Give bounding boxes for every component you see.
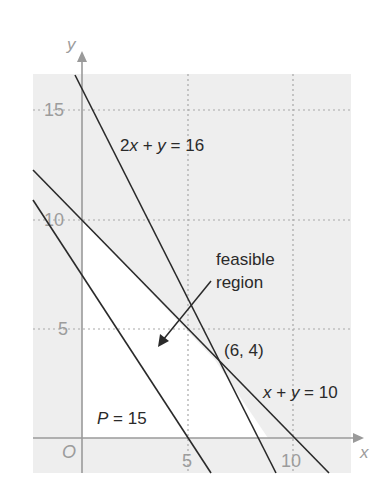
lp-diagram: 15 10 5 5 10 O y x 2x + y = 16 feasible … bbox=[0, 0, 382, 502]
x-axis-label: x bbox=[359, 443, 369, 462]
x-tick-5: 5 bbox=[182, 451, 192, 471]
label-region: region bbox=[216, 273, 263, 292]
y-tick-10: 10 bbox=[44, 210, 64, 230]
y-axis-label: y bbox=[66, 35, 77, 54]
label-feasible: feasible bbox=[216, 250, 275, 269]
label-x-plus-y-10: x + y = 10 bbox=[262, 383, 338, 402]
origin-label: O bbox=[62, 442, 76, 462]
label-2x-plus-y-16: 2x + y = 16 bbox=[120, 136, 204, 155]
x-axis-arrow-icon bbox=[353, 433, 364, 443]
y-tick-15: 15 bbox=[44, 100, 64, 120]
y-tick-5: 5 bbox=[58, 319, 68, 339]
vertex-label: (6, 4) bbox=[224, 341, 264, 360]
y-axis-arrow-icon bbox=[77, 51, 87, 62]
x-tick-10: 10 bbox=[281, 451, 301, 471]
label-p-15: P = 15 bbox=[97, 409, 147, 428]
